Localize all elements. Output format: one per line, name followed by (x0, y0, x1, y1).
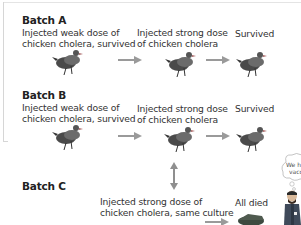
batch-b-step3-label: Survived (235, 103, 274, 114)
batch-c-title: Batch C (22, 180, 66, 192)
batch-a-step1-line1: Injected weak dose of (22, 27, 119, 38)
arrow-right-icon (118, 132, 142, 140)
chicken-icon (52, 123, 86, 151)
batch-c-step3-label: All died (235, 197, 268, 208)
chicken-icon (165, 50, 199, 78)
arrow-right-icon (205, 218, 229, 225)
scientist-figure (284, 190, 301, 225)
arrow-right-icon (206, 56, 230, 64)
chicken-icon (52, 48, 86, 76)
dead-chicken-icon (234, 212, 268, 225)
batch-c-step2-line2: chicken cholera, same culture (100, 207, 234, 218)
batch-b-title: Batch B (22, 89, 66, 101)
frame-border-top (3, 2, 301, 3)
batch-b-step1-line1: Injected weak dose of (22, 102, 119, 113)
frame-border-left (3, 2, 4, 142)
batch-a-step2-line1: Injected strong dose (137, 27, 228, 38)
arrow-right-icon (206, 132, 230, 140)
arrow-right-icon (118, 56, 142, 64)
bubble-text-line1: We ha (286, 161, 301, 168)
frame-border-tick (3, 141, 8, 142)
batch-b-step2-line1: Injected strong dose (137, 103, 228, 114)
batch-a-step2-line2: of chicken cholera (137, 38, 218, 49)
batch-c-step2-line1: Injected strong dose of (100, 196, 202, 207)
batch-b-step2-line2: of chicken cholera (137, 114, 218, 125)
batch-a-step3-label: Survived (235, 28, 274, 39)
chicken-icon (236, 50, 270, 78)
double-arrow-vertical-icon (170, 162, 178, 190)
bubble-text-line2: vacc (289, 168, 301, 175)
batch-a-title: Batch A (22, 14, 66, 26)
chicken-icon (236, 125, 270, 153)
chicken-icon (164, 125, 198, 153)
